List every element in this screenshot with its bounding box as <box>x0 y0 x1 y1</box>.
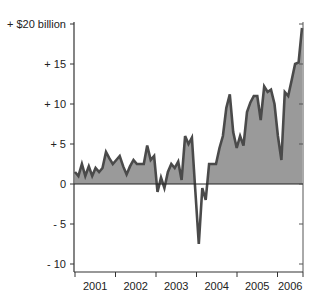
y-tick-label: + $20 billion <box>7 18 66 30</box>
y-tick-label: + 5 <box>50 138 66 150</box>
x-tick-label: 2004 <box>205 280 229 292</box>
x-tick-label: 2001 <box>83 280 107 292</box>
x-tick-label: 2005 <box>245 280 269 292</box>
y-tick-label: + 10 <box>44 98 66 110</box>
area-chart: + $20 billion+ 15+ 10+ 50- 5- 1020012002… <box>0 0 321 308</box>
x-tick-label: 2006 <box>278 280 302 292</box>
y-tick-label: 0 <box>60 178 66 190</box>
positive-area <box>75 28 302 244</box>
x-tick-label: 2002 <box>124 280 148 292</box>
x-tick-label: 2003 <box>164 280 188 292</box>
y-tick-label: - 10 <box>47 258 66 270</box>
data-area <box>75 28 302 244</box>
y-tick-label: + 15 <box>44 58 66 70</box>
y-tick-label: - 5 <box>53 218 66 230</box>
